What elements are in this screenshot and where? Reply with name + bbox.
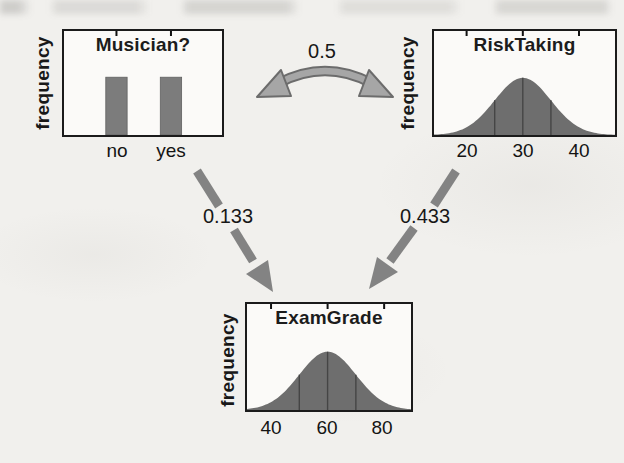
musician-xtick-yes: yes xyxy=(149,140,193,162)
risktaking-xtick-30: 30 xyxy=(501,140,545,162)
examgrade-panel: ExamGrade xyxy=(245,302,413,412)
risktaking-xtick-20: 20 xyxy=(445,140,489,162)
curved-arrowhead-right-icon xyxy=(359,70,393,97)
risktaking-xtick-40: 40 xyxy=(557,140,601,162)
arrowhead-examgrade-right-icon xyxy=(369,257,398,289)
examgrade-ylabel: frequency xyxy=(217,295,239,425)
path-arrow-risktaking-examgrade xyxy=(369,171,456,289)
arrowhead-examgrade-left-icon xyxy=(246,260,273,292)
musician-xtick-no: no xyxy=(95,140,139,162)
risktaking-ylabel: frequency xyxy=(397,18,419,148)
musician-panel: Musician? xyxy=(62,29,224,137)
edge-label-musician-examgrade: 0.133 xyxy=(188,205,268,228)
edge-label-covariance: 0.5 xyxy=(292,40,352,63)
examgrade-xtick-40: 40 xyxy=(249,417,293,439)
examgrade-xtick-80: 80 xyxy=(360,417,404,439)
figure-page: Musician? frequency no yes RiskTaking fr… xyxy=(0,0,624,463)
examgrade-xtick-60: 60 xyxy=(305,417,349,439)
examgrade-title: ExamGrade xyxy=(247,307,411,329)
path-arrow-musician-examgrade xyxy=(197,171,273,292)
risktaking-title: RiskTaking xyxy=(434,34,615,56)
scan-bleedthrough-artifact xyxy=(0,0,624,14)
musician-title: Musician? xyxy=(64,34,222,56)
risktaking-panel: RiskTaking xyxy=(432,29,617,137)
covariance-arrow-musician-risktaking xyxy=(257,70,393,97)
edge-label-risktaking-examgrade: 0.433 xyxy=(385,205,465,228)
musician-ylabel: frequency xyxy=(32,18,54,148)
curved-arrowhead-left-icon xyxy=(257,70,291,97)
